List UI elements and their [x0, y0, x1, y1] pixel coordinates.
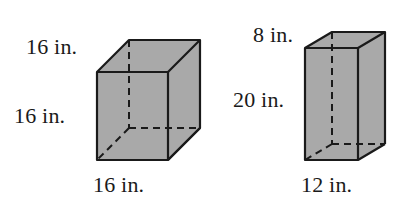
right-prism-right-face	[358, 32, 385, 160]
right-prism-width-label: 12 in.	[301, 174, 352, 196]
right-prism-height-label: 20 in.	[233, 89, 284, 111]
left-cube-front-face	[97, 72, 168, 160]
right-prism-depth-label: 8 in.	[253, 24, 293, 46]
right-prism	[305, 32, 385, 160]
left-cube-width-label: 16 in.	[93, 174, 144, 196]
left-cube-depth-label: 16 in.	[26, 36, 77, 58]
figure-canvas: 16 in. 16 in. 16 in. 8 in. 20 in. 12 in.	[0, 0, 409, 210]
left-cube-height-label: 16 in.	[14, 105, 65, 127]
left-cube	[97, 40, 200, 160]
